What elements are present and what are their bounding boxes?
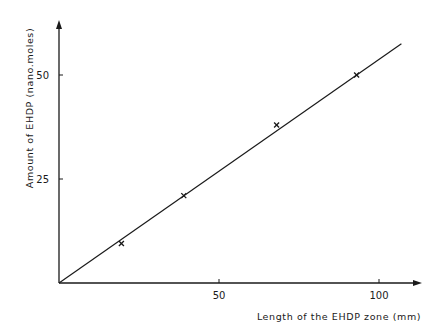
y-tick-label: 25 bbox=[36, 174, 49, 185]
x-axis-arrow-icon bbox=[413, 280, 422, 286]
x-axis-title: Length of the EHDP zone (mm) bbox=[257, 311, 421, 322]
y-axis-arrow-icon bbox=[56, 20, 62, 29]
x-tick-label: 50 bbox=[213, 290, 226, 301]
data-point-x-marker-icon bbox=[274, 122, 279, 127]
fit-line bbox=[59, 44, 401, 283]
y-tick-label: 50 bbox=[36, 70, 49, 81]
x-tick-label: 100 bbox=[369, 290, 388, 301]
plot-area bbox=[59, 44, 401, 283]
ticks: 501002550 bbox=[36, 70, 388, 301]
data-point-x-marker-icon bbox=[119, 241, 124, 246]
y-axis-title: Amount of EHDP (nano.moles) bbox=[24, 28, 35, 188]
chart: 501002550 Length of the EHDP zone (mm) A… bbox=[0, 0, 442, 334]
